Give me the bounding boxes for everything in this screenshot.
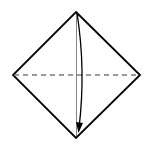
origami-diagram (0, 0, 144, 145)
fold-diagram-svg (0, 0, 144, 145)
